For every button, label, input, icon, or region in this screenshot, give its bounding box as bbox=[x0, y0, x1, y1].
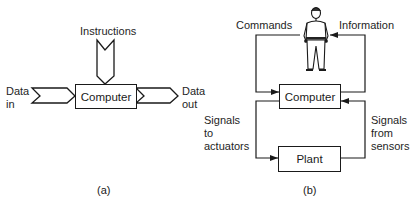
signals-to-actuators-line2: to bbox=[204, 127, 213, 140]
computer-label-b: Computer bbox=[285, 91, 336, 103]
signals-to-actuators-line3: actuators bbox=[204, 140, 249, 153]
operator-person-icon bbox=[304, 8, 328, 71]
plant-box: Plant bbox=[278, 146, 341, 172]
commands-label: Commands bbox=[236, 19, 292, 32]
plant-label: Plant bbox=[296, 153, 322, 165]
information-label: Information bbox=[339, 19, 394, 32]
signals-from-sensors-line2: from bbox=[371, 127, 393, 140]
actuators-connector bbox=[256, 101, 279, 158]
signals-to-actuators-line1: Signals bbox=[204, 114, 240, 127]
computer-box-b: Computer bbox=[279, 84, 341, 109]
signals-from-sensors-line1: Signals bbox=[371, 114, 407, 127]
sensors-connector bbox=[340, 101, 365, 158]
signals-from-sensors-line3: sensors bbox=[371, 140, 410, 153]
caption-b: (b) bbox=[303, 184, 316, 196]
